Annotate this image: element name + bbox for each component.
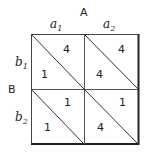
payoff-a2b1-upper: 4 [118,44,125,55]
payoff-a2b1-lower: 4 [96,69,103,80]
payoff-a1b1-upper: 4 [63,44,70,55]
payoff-a2b2-lower: 4 [97,122,104,133]
payoff-a1b2-lower: 1 [44,122,51,133]
payoff-a1b1-lower: 1 [41,69,48,80]
payoff-a2b2-upper: 1 [119,97,126,108]
payoff-grid [0,0,152,154]
payoff-a1b2-upper: 1 [64,97,71,108]
